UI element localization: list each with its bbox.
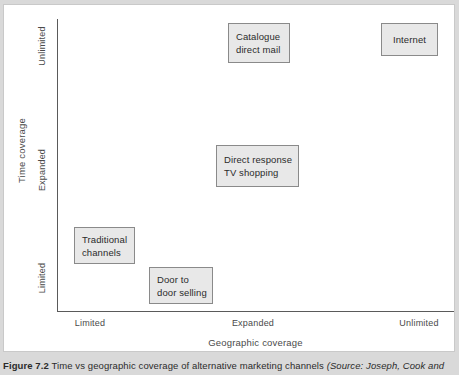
x-tick-label-expanded: Expanded [208,318,298,328]
channel-box-catalogue-direct-mail: Catalogue direct mail [228,23,290,63]
channel-box-internet: Internet [381,23,438,56]
y-tick-label-expanded: Expanded [37,130,47,210]
y-tick-label-unlimited: Unlimited [37,6,47,86]
figure-caption-text: Time vs geographic coverage of alternati… [51,360,323,371]
x-axis-line [57,311,454,312]
y-tick-label-limited: Limited [37,238,47,318]
figure-caption: Figure 7.2 Time vs geographic coverage o… [3,360,455,371]
x-tick-label-limited: Limited [45,318,135,328]
channel-box-direct-response-tv-shopping: Direct response TV shopping [216,145,299,187]
x-tick-label-unlimited: Unlimited [374,318,459,328]
chart-plate: Time coverage Geographic coverage Unlimi… [3,4,455,352]
figure-caption-source: (Source: Joseph, Cook and [327,360,445,371]
x-axis-title: Geographic coverage [57,337,454,348]
channel-box-traditional-channels: Traditional channels [74,227,135,264]
channel-box-door-to-door-selling: Door to door selling [149,267,213,304]
y-axis-line [57,19,58,311]
figure-root: Time coverage Geographic coverage Unlimi… [0,0,459,375]
y-axis-title: Time coverage [16,101,27,201]
figure-caption-label: Figure 7.2 [3,360,49,371]
